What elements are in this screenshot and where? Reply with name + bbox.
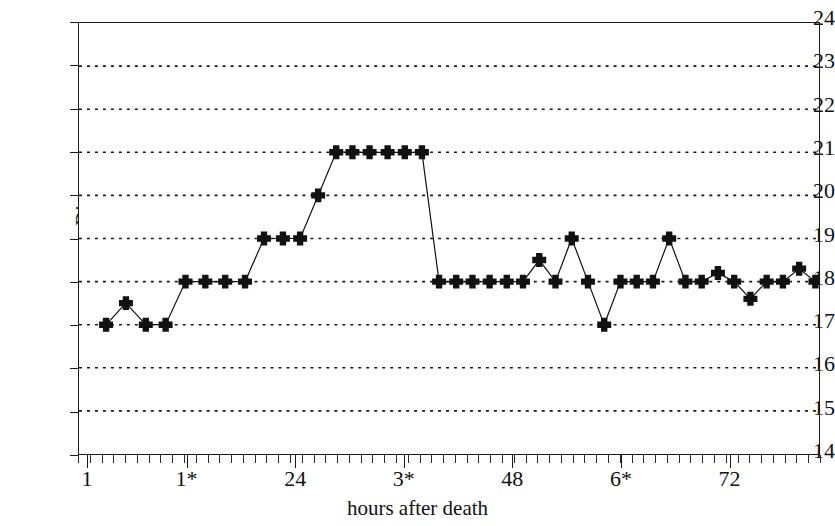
x-axis-title: hours after death <box>0 496 835 521</box>
x-tick-label: 3* <box>369 466 439 492</box>
x-tick-minor <box>361 455 362 463</box>
x-tick-minor <box>808 455 809 463</box>
x-tick-minor <box>502 455 503 463</box>
data-point-marker <box>198 275 212 289</box>
x-tick-minor <box>526 455 527 463</box>
x-tick-minor <box>160 455 161 463</box>
data-point-marker <box>293 232 307 246</box>
data-point-marker <box>695 275 709 289</box>
series-markers <box>99 145 819 331</box>
data-point-marker <box>179 275 193 289</box>
data-point-marker <box>257 232 271 246</box>
x-tick-minor <box>690 455 691 463</box>
x-tick-minor <box>219 455 220 463</box>
x-tick-minor <box>443 455 444 463</box>
data-point-marker <box>381 145 395 159</box>
x-tick-minor <box>290 455 291 463</box>
data-point-marker <box>398 145 412 159</box>
x-tick-minor <box>255 455 256 463</box>
x-tick-minor <box>337 455 338 463</box>
x-tick-minor <box>90 455 91 463</box>
x-tick-minor <box>643 455 644 463</box>
y-tick-label: 21 <box>789 137 835 159</box>
x-tick-minor <box>231 455 232 463</box>
x-tick-minor <box>749 455 750 463</box>
y-tick-mark <box>70 239 79 240</box>
x-tick-minor <box>184 455 185 463</box>
x-tick-minor <box>761 455 762 463</box>
data-series <box>79 23 819 454</box>
y-tick-label: 17 <box>789 310 835 332</box>
data-point-marker <box>630 275 644 289</box>
x-tick-minor <box>738 455 739 463</box>
y-tick-label: 18 <box>789 267 835 289</box>
x-tick-minor <box>196 455 197 463</box>
data-point-marker <box>276 232 290 246</box>
x-tick-minor <box>702 455 703 463</box>
x-tick-label: 1 <box>52 466 122 492</box>
data-point-marker <box>345 145 359 159</box>
series-line <box>106 152 819 324</box>
x-tick-minor <box>172 455 173 463</box>
x-tick-minor <box>408 455 409 463</box>
x-tick-minor <box>584 455 585 463</box>
x-tick-minor <box>714 455 715 463</box>
x-tick-minor <box>490 455 491 463</box>
data-point-marker <box>159 318 173 332</box>
data-point-marker <box>646 275 660 289</box>
x-tick-minor <box>113 455 114 463</box>
data-point-marker <box>329 145 343 159</box>
data-point-marker <box>500 275 514 289</box>
x-tick-label: 1* <box>152 466 222 492</box>
y-tick-label: 20 <box>789 180 835 202</box>
x-tick-minor <box>820 455 821 463</box>
data-point-marker <box>613 275 627 289</box>
x-tick-minor <box>796 455 797 463</box>
x-tick-minor <box>573 455 574 463</box>
x-tick-minor <box>78 455 79 463</box>
x-tick-minor <box>431 455 432 463</box>
y-tick-label: 15 <box>789 397 835 419</box>
x-tick-minor <box>785 455 786 463</box>
data-point-marker <box>465 275 479 289</box>
x-tick-minor <box>314 455 315 463</box>
x-tick-minor <box>467 455 468 463</box>
y-tick-mark <box>70 412 79 413</box>
x-tick-minor <box>478 455 479 463</box>
y-tick-label: 24 <box>789 7 835 29</box>
x-tick-minor <box>420 455 421 463</box>
y-tick-mark <box>70 368 79 369</box>
data-point-marker <box>432 275 446 289</box>
x-tick-minor <box>149 455 150 463</box>
x-tick-minor <box>679 455 680 463</box>
x-tick-label: 72 <box>695 466 765 492</box>
data-point-marker <box>549 275 563 289</box>
data-point-marker <box>415 145 429 159</box>
y-tick-mark <box>70 109 79 110</box>
data-point-marker <box>363 145 377 159</box>
data-point-marker <box>565 232 579 246</box>
data-point-marker <box>449 275 463 289</box>
data-point-marker <box>776 275 790 289</box>
y-tick-label: 22 <box>789 94 835 116</box>
data-point-marker <box>711 266 725 280</box>
data-point-marker <box>516 275 530 289</box>
x-tick-minor <box>726 455 727 463</box>
data-point-marker <box>238 275 252 289</box>
y-tick-label: 23 <box>789 50 835 72</box>
plot-area <box>78 22 820 455</box>
x-tick-minor <box>549 455 550 463</box>
data-point-marker <box>581 275 595 289</box>
x-tick-minor <box>773 455 774 463</box>
x-tick-label: 24 <box>260 466 330 492</box>
data-point-marker <box>597 318 611 332</box>
y-tick-label: 19 <box>789 224 835 246</box>
x-tick-minor <box>384 455 385 463</box>
data-point-marker <box>662 232 676 246</box>
x-tick-minor <box>537 455 538 463</box>
y-tick-mark <box>70 195 79 196</box>
x-tick-minor <box>608 455 609 463</box>
x-tick-minor <box>455 455 456 463</box>
y-tick-mark <box>70 325 79 326</box>
x-tick-minor <box>302 455 303 463</box>
